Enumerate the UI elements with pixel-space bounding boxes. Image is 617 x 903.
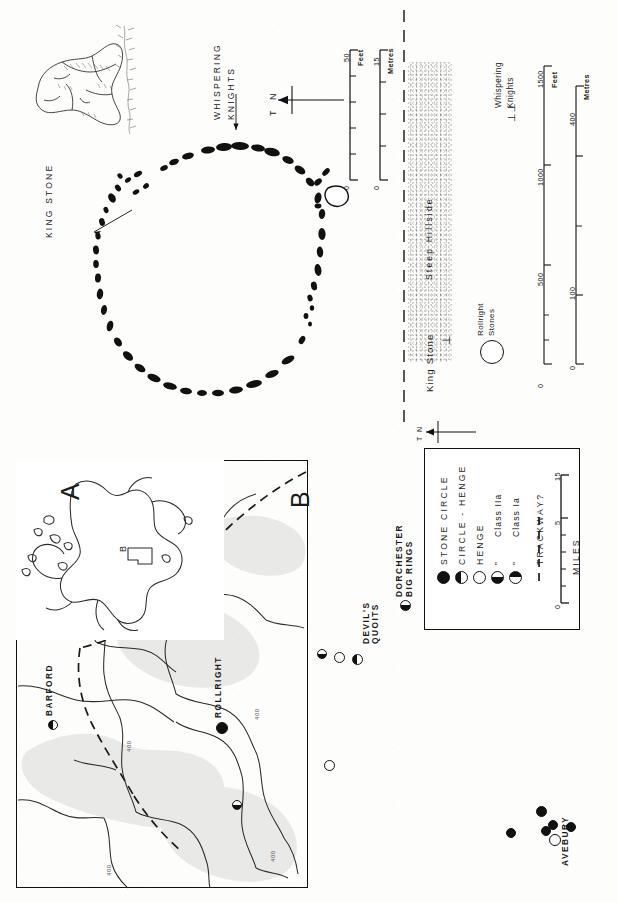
- north-arrow-context-plan: [410, 414, 480, 450]
- legend-scale-tick-5: 5: [553, 521, 562, 525]
- legend-symbol-class-2a: [491, 571, 504, 584]
- context-scale-feet-tick-0: 0: [536, 384, 545, 388]
- scale-feet-unit-circle: Feet: [356, 49, 365, 66]
- site-symbol-avebury-c[interactable]: [566, 822, 576, 832]
- map-a-panel-letter: A: [56, 482, 85, 500]
- king-stone-glyph: ⊥: [440, 334, 453, 345]
- legend-prefix-class-2a: ”: [493, 561, 503, 565]
- site-symbol-dorchester[interactable]: [400, 600, 411, 611]
- legend-symbol-class-1a: [509, 571, 522, 584]
- north-arrow-label-n-circle: N: [268, 94, 278, 101]
- site-label-barford: BARFORD: [44, 664, 54, 716]
- contour-label-400-c: 400: [254, 708, 260, 720]
- site-symbol-avebury-outlier-1[interactable]: [506, 828, 516, 838]
- site-symbol-barford[interactable]: [48, 720, 58, 730]
- scale-metres-tick-15-circle: 15: [372, 57, 381, 66]
- context-scale-feet-tick-1000: 1000: [536, 168, 545, 186]
- legend-scale-unit: MILES: [571, 538, 581, 575]
- contour-label-400-b: 400: [106, 864, 112, 876]
- site-symbol-avebury-outlier-2[interactable]: [536, 806, 547, 817]
- legend-label-stone-circle: STONE CIRCLE: [439, 475, 449, 565]
- legend-scale-tick-0: 0: [553, 605, 562, 609]
- map-a-inset-label-b: B: [118, 545, 128, 552]
- site-symbol-avebury-b[interactable]: [548, 820, 558, 830]
- context-scale-metres-unit: Metres: [582, 74, 591, 100]
- scale-feet-tick-0-circle: 0: [342, 186, 351, 190]
- site-label-dorchester-line2: BIG RINGS: [404, 540, 414, 597]
- north-arrow-label-n-context: N: [416, 427, 423, 432]
- site-label-devils-quoits-line2: QUOITS: [370, 603, 380, 644]
- context-scale-metres-tick-100: 100: [568, 287, 577, 300]
- legend-symbol-henge: [473, 571, 486, 584]
- annotation-whispering: WHISPERING: [212, 43, 222, 120]
- plan-annotation-leaders: [70, 90, 330, 320]
- scale-metres-tick-0-circle: 0: [372, 186, 381, 190]
- whispering-knights-glyph: ⊥⊥: [506, 102, 517, 122]
- context-scale-feet-unit: Feet: [550, 71, 559, 88]
- legend-symbol-circle-henge: [455, 571, 468, 584]
- map-b-panel-letter: B: [286, 490, 315, 508]
- context-scale-metres-tick-0: 0: [568, 366, 577, 370]
- north-arrow-label-t-circle: T: [268, 111, 278, 117]
- context-scale-metres-tick-400: 400: [568, 113, 577, 126]
- site-symbol-devils-quoits-c[interactable]: [352, 654, 363, 665]
- annotation-king-stone: KING STONE: [44, 164, 54, 238]
- context-label-rollright-line2: Stones: [487, 309, 496, 336]
- site-label-dorchester-line1: DORCHESTER: [394, 524, 404, 597]
- north-arrow-label-t-context: T: [416, 437, 423, 441]
- steep-hillside-label: Steep Hillside: [424, 197, 434, 280]
- legend-box: STONE CIRCLE CIRCLE - HENGE HENGE ” Clas…: [424, 448, 580, 630]
- legend-prefix-class-1a: ”: [511, 561, 521, 565]
- contour-label-400-a: 400: [126, 740, 132, 752]
- site-symbol-avebury-henge[interactable]: [549, 834, 561, 846]
- legend-label-class-1a: Class Ia: [511, 497, 521, 537]
- rollright-circle-plan: KING STONE WHISPERING KNIGHTS N T 0 50 F…: [0, 0, 617, 440]
- legend-symbol-stone-circle: [437, 571, 450, 584]
- legend-label-henge: HENGE: [475, 523, 485, 565]
- site-symbol-devils-quoits-b[interactable]: [334, 652, 345, 663]
- scale-feet-tick-50-circle: 50: [342, 53, 351, 62]
- legend-label-class-2a: Class IIa: [493, 494, 503, 537]
- legend-scale-tick-15: 15: [553, 472, 562, 481]
- site-label-rollright: ROLLRIGHT: [213, 656, 223, 718]
- context-scale-feet-bar: [534, 60, 556, 370]
- context-label-king-stone: King Stone: [424, 334, 435, 392]
- site-symbol-rollright[interactable]: [216, 722, 228, 734]
- context-scale-feet-tick-500: 500: [536, 273, 545, 286]
- site-symbol-half-isolated[interactable]: [232, 800, 242, 810]
- context-scale-feet-tick-1500: 1500: [536, 70, 545, 88]
- context-marker-rollright-circle[interactable]: [480, 340, 504, 364]
- annotation-knights: KNIGHTS: [226, 67, 236, 120]
- site-symbol-devils-quoits-a[interactable]: [317, 649, 327, 659]
- king-stone-leader: [94, 210, 132, 232]
- legend-label-trackway: TRACKWAY?: [535, 493, 545, 565]
- context-label-rollright-line1: Rollright: [476, 303, 485, 336]
- site-symbol-henge-isolated[interactable]: [324, 760, 335, 771]
- contour-label-400-d: 400: [270, 850, 276, 862]
- legend-label-circle-henge: CIRCLE - HENGE: [457, 464, 467, 565]
- context-label-whispering: Whispering: [494, 62, 503, 108]
